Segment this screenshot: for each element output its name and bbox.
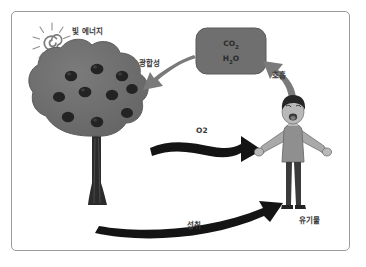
co2-label: CO2 (223, 39, 239, 48)
organic-matter-label: 유기물 (299, 214, 321, 225)
light-energy-label: 빛 에너지 (72, 25, 104, 36)
oxygen-label: O2 (196, 126, 208, 135)
diagram-canvas: CO2 H2O 빛 에너지 광합성 호흡 O2 섭취 유기물 (0, 0, 366, 267)
photosynthesis-label: 광합성 (139, 57, 161, 68)
respiration-label: 호흡 (272, 69, 286, 80)
diagram-artwork (0, 0, 366, 267)
h2o-label: H2O (223, 54, 240, 63)
person-graphic (254, 95, 331, 209)
ingestion-label: 섭취 (187, 219, 201, 230)
gas-box-label: CO2 H2O (205, 38, 257, 67)
oxygen-arrow (150, 136, 262, 162)
tree-graphic (29, 39, 148, 205)
